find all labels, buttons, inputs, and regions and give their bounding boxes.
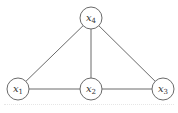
- graph-diagram: x4 x1 x2 x3: [0, 0, 178, 113]
- node-subscript: 4: [92, 17, 97, 25]
- node-x2: x2: [80, 78, 102, 100]
- node-x4: x4: [80, 7, 102, 29]
- faint-caption-artifact: [4, 104, 174, 108]
- node-subscript: 2: [92, 88, 96, 96]
- node-x3: x3: [152, 78, 174, 100]
- node-x1: x1: [7, 78, 29, 100]
- node-subscript: 3: [164, 88, 168, 96]
- node-subscript: 1: [19, 88, 23, 96]
- edge-x4-x1: [18, 18, 91, 89]
- edge-x4-x3: [91, 18, 163, 89]
